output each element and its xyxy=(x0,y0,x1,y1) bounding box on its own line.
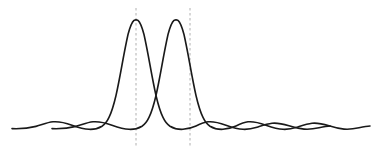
diffraction-figure xyxy=(0,0,381,155)
figure-canvas xyxy=(0,0,381,155)
